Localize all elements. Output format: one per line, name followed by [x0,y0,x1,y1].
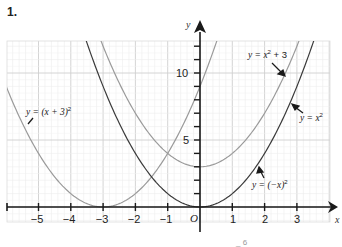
y-axis-label: y [185,19,191,30]
axes [7,32,332,232]
x-tick-label: −5 [31,213,44,225]
y-tick-label: 10 [176,67,188,79]
x-tick-label: −4 [63,213,76,225]
y-tick-label: 5 [183,134,189,146]
x-tick-label: −1 [160,213,173,225]
footer-fragment: _ 6 [235,238,248,247]
origin-label: O [190,212,198,224]
y-axis-arrow-icon [194,20,206,33]
annotation-x-squared: y = x2 [299,112,324,123]
annotation-x-plus-3-squared: y = (x + 3)2 [25,106,72,118]
chart: −5 −4 −3 −2 −1 1 2 3 10 5 O x y y = (x +… [0,0,342,247]
x-tick-label: −3 [96,213,109,225]
x-tick-label: 2 [262,213,268,225]
x-axis-label: x [334,214,340,225]
annotation-neg-x-squared: y = (−x)2 [251,179,288,191]
x-tick-label: −2 [128,213,141,225]
x-tick-label: 1 [230,213,236,225]
annotation-x-squared-plus-3: y = x2 + 3 [247,49,287,60]
x-tick-label: 3 [294,213,300,225]
